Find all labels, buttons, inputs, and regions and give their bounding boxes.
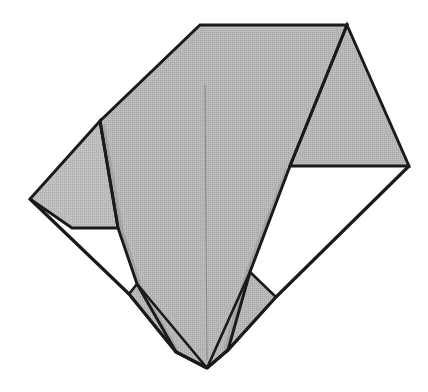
origami-fold-illustration bbox=[0, 0, 428, 392]
origami-diagram-canvas bbox=[0, 0, 428, 392]
